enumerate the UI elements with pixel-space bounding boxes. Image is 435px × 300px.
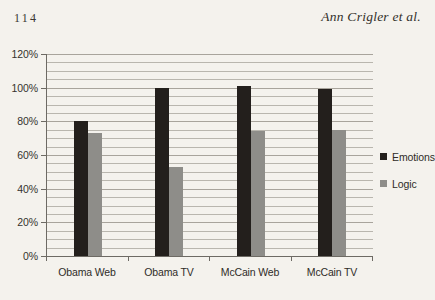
running-head: 114 Ann Crigler et al. (0, 0, 435, 40)
x-axis-tick (209, 256, 210, 261)
x-axis-tick (46, 256, 47, 261)
gridline-minor (47, 79, 373, 80)
running-head-author: Ann Crigler et al. (321, 9, 421, 25)
y-axis-tick-label: 60% (2, 149, 38, 161)
x-axis-category-label: Obama TV (128, 266, 210, 278)
book-page: 114 Ann Crigler et al. 0%20%40%60%80%100… (0, 0, 435, 300)
x-axis-tick (372, 256, 373, 261)
x-axis-category-label: McCain Web (209, 266, 291, 278)
bar-logic-mccain-web (251, 131, 265, 256)
gridline-major (47, 54, 373, 55)
y-axis-tick-label-wrap: 0% (0, 250, 38, 262)
legend-swatch-icon (380, 153, 387, 160)
bar-emotions-mccain-web (237, 86, 251, 256)
x-axis-tick (128, 256, 129, 261)
chart-legend: EmotionsLogic (380, 148, 435, 202)
gridline-minor (47, 71, 373, 72)
x-axis-tick (291, 256, 292, 261)
legend-item-label: Logic (392, 178, 417, 190)
y-axis-tick-label: 120% (2, 48, 38, 60)
y-axis-tick-label: 40% (2, 183, 38, 195)
y-axis-tick-label-wrap: 80% (0, 115, 38, 127)
bar-logic-mccain-tv (332, 130, 346, 256)
y-axis-tick-label: 0% (2, 250, 38, 262)
y-axis-tick-label-wrap: 100% (0, 82, 38, 94)
legend-item-label: Emotions (392, 151, 435, 163)
bar-logic-obama-web (88, 133, 102, 256)
legend-item-emotions: Emotions (380, 148, 435, 165)
bar-emotions-obama-web (74, 121, 88, 256)
x-axis-category-label: McCain TV (291, 266, 373, 278)
y-axis-tick-label: 20% (2, 216, 38, 228)
bar-emotions-obama-tv (155, 88, 169, 256)
bar-emotions-mccain-tv (318, 89, 332, 256)
legend-item-logic: Logic (380, 175, 435, 192)
legend-swatch-icon (380, 180, 387, 187)
plot-area (46, 54, 373, 256)
y-axis-tick-label-wrap: 120% (0, 48, 38, 60)
y-axis-tick-label: 80% (2, 115, 38, 127)
bar-chart-figure: 0%20%40%60%80%100%120% Obama WebObama TV… (0, 40, 435, 300)
y-axis-tick-label-wrap: 20% (0, 216, 38, 228)
y-axis-tick-label-wrap: 40% (0, 183, 38, 195)
x-axis-category-label: Obama Web (46, 266, 128, 278)
page-number: 114 (14, 11, 38, 26)
y-axis-tick-label-wrap: 60% (0, 149, 38, 161)
bar-logic-obama-tv (169, 167, 183, 256)
y-axis-tick-label: 100% (2, 82, 38, 94)
gridline-minor (47, 62, 373, 63)
